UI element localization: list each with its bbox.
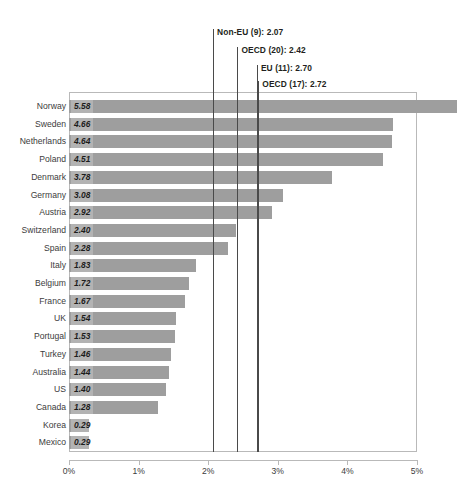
bar-row: Norway5.58: [0, 100, 452, 113]
bar-value-label: 2.28: [71, 242, 93, 255]
category-label: Portugal: [0, 330, 66, 343]
bar: [69, 153, 383, 166]
reference-line-label: EU (11): 2.70: [261, 63, 312, 73]
x-axis-tick-label: 3%: [272, 466, 284, 476]
bar-row: Poland4.51: [0, 153, 452, 166]
bar-value-label: 1.40: [71, 383, 93, 396]
bar-row: Spain2.28: [0, 242, 452, 255]
x-axis-tick: [278, 460, 279, 465]
bar-row: Denmark3.78: [0, 171, 452, 184]
reference-line-label: Non-EU (9): 2.07: [217, 27, 283, 37]
bar-row: Belgium1.72: [0, 277, 452, 290]
bar-row: Italy1.83: [0, 259, 452, 272]
bar: [69, 189, 283, 202]
bar-value-label: 1.28: [71, 401, 93, 414]
bar-value-label: 2.40: [71, 224, 93, 237]
bar: [69, 118, 393, 131]
bar-row: Sweden4.66: [0, 118, 452, 131]
bar: [69, 224, 236, 237]
bar: [69, 206, 272, 219]
category-label: Austria: [0, 206, 66, 219]
bar-row: Portugal1.53: [0, 330, 452, 343]
bar-row: Mexico0.29: [0, 436, 452, 449]
category-label: Netherlands: [0, 135, 66, 148]
category-label: Poland: [0, 153, 66, 166]
bar-value-label: 1.83: [71, 259, 93, 272]
x-axis-tick-label: 4%: [341, 466, 353, 476]
bar-row: France1.67: [0, 295, 452, 308]
category-label: Italy: [0, 259, 66, 272]
category-label: Switzerland: [0, 224, 66, 237]
category-label: Korea: [0, 419, 66, 432]
category-label: Canada: [0, 401, 66, 414]
category-label: France: [0, 295, 66, 308]
bar-row: Korea0.29: [0, 419, 452, 432]
reference-line: [237, 47, 238, 452]
category-label: US: [0, 383, 66, 396]
category-label: Mexico: [0, 436, 66, 449]
x-axis-tick-label: 1%: [132, 466, 144, 476]
x-axis-tick-label: 2%: [202, 466, 214, 476]
bar-value-label: 2.92: [71, 206, 93, 219]
bar-value-label: 4.51: [71, 153, 93, 166]
reference-line: [258, 81, 259, 452]
bar-row: Austria2.92: [0, 206, 452, 219]
bar-value-label: 4.66: [71, 118, 93, 131]
category-label: Germany: [0, 189, 66, 202]
bar-row: Germany3.08: [0, 189, 452, 202]
bar-value-label: 1.46: [71, 348, 93, 361]
bar-value-label: 5.58: [71, 100, 93, 113]
x-axis-tick: [208, 460, 209, 465]
category-label: Denmark: [0, 171, 66, 184]
bar-row: Canada1.28: [0, 401, 452, 414]
x-axis-tick-label: 5%: [411, 466, 423, 476]
x-axis-line: [69, 460, 417, 461]
bar-row: Netherlands4.64: [0, 135, 452, 148]
category-label: Norway: [0, 100, 66, 113]
category-label: Spain: [0, 242, 66, 255]
bar-value-label: 0.29: [71, 436, 93, 449]
category-label: Sweden: [0, 118, 66, 131]
category-label: Belgium: [0, 277, 66, 290]
bar-row: US1.40: [0, 383, 452, 396]
bar-value-label: 4.64: [71, 135, 93, 148]
reference-line-label: OECD (20): 2.42: [241, 45, 305, 55]
bar-value-label: 1.67: [71, 295, 93, 308]
bar-row: Turkey1.46: [0, 348, 452, 361]
x-axis-tick: [69, 460, 70, 465]
category-label: Turkey: [0, 348, 66, 361]
bar-value-label: 1.54: [71, 312, 93, 325]
bar-row: UK1.54: [0, 312, 452, 325]
bar-value-label: 1.44: [71, 366, 93, 379]
x-axis-tick: [139, 460, 140, 465]
category-label: UK: [0, 312, 66, 325]
bar: [69, 100, 457, 113]
bar-row: Switzerland2.40: [0, 224, 452, 237]
x-axis-tick: [417, 460, 418, 465]
x-axis-tick-label: 0%: [63, 466, 75, 476]
reference-line-label: OECD (17): 2.72: [262, 79, 326, 89]
bar-value-label: 0.29: [71, 419, 93, 432]
reference-line: [213, 29, 214, 452]
bar-value-label: 3.08: [71, 189, 93, 202]
category-label: Australia: [0, 366, 66, 379]
bar-row: Australia1.44: [0, 366, 452, 379]
bar-value-label: 1.53: [71, 330, 93, 343]
x-axis-tick: [347, 460, 348, 465]
bar-value-label: 1.72: [71, 277, 93, 290]
bar: [69, 171, 332, 184]
bar: [69, 135, 392, 148]
bar-value-label: 3.78: [71, 171, 93, 184]
